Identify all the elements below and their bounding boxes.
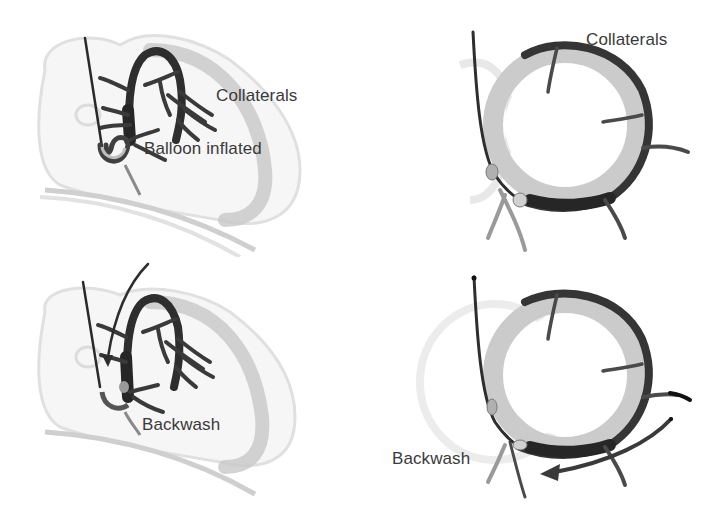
panel-short-axis-collaterals: Collaterals (360, 0, 720, 257)
label-backwash: Backwash (142, 415, 220, 435)
label-collaterals: Collaterals (586, 30, 667, 50)
heart-lateral-illustration (0, 0, 360, 257)
panel-balloon-inflated: Collaterals Balloon inflated (0, 0, 360, 257)
panel-backwash-lateral: Backwash (0, 257, 360, 514)
panel-backwash-short-axis: Backwash (360, 257, 720, 514)
heart-short-axis-backwash-illustration (360, 257, 720, 514)
heart-lateral-backwash-illustration (0, 257, 360, 514)
label-backwash: Backwash (392, 449, 470, 469)
label-collaterals: Collaterals (216, 86, 297, 106)
label-balloon-inflated: Balloon inflated (144, 139, 262, 159)
